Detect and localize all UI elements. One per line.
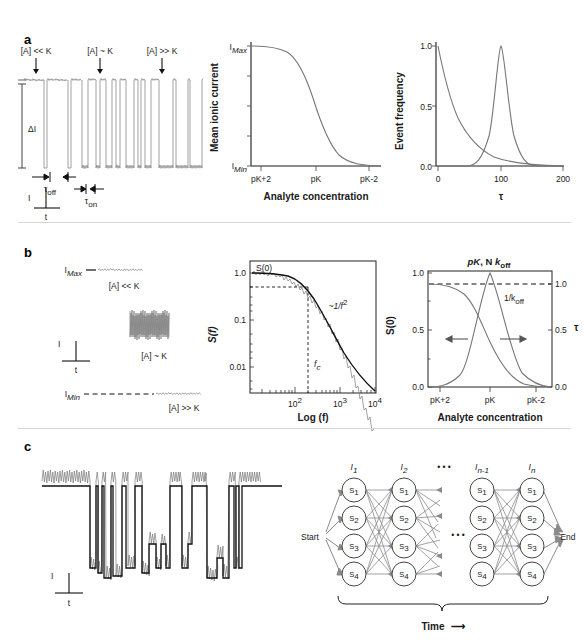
xtick-b-pk: pK: [485, 395, 496, 405]
ionic-current-signal: [24, 78, 203, 168]
xtick-pk-plus-2: pK+2: [251, 174, 271, 184]
panel-a: a [A] << K [A] ~ K [A] >> K: [0, 0, 585, 215]
tau-off-marker: [32, 172, 76, 182]
scale-i-label-a: I: [28, 193, 30, 203]
lorentzian-fit-curve: [252, 273, 375, 391]
xtick-b-pk-plus-2: pK+2: [430, 395, 450, 405]
label-slope-1-over-f-squared: ~1/f2: [329, 298, 348, 311]
panel-b-s0-tau-chart: pK, N koff S(0) τ 1.0 0.5 0.0 1.0 0.5 0.…: [384, 249, 584, 424]
axis-label-event-frequency: Event frequency: [394, 72, 405, 150]
delta-i-bracket: [18, 84, 26, 168]
start-arrows: [326, 490, 344, 575]
scale-i-label-b: I: [58, 339, 60, 349]
scale-t-label-b: t: [75, 365, 78, 375]
panel-c-hmm-trellis: I1 I2 • • • In-1 In: [292, 448, 582, 638]
exponential-decay-curve: [438, 46, 563, 166]
xtick-200: 200: [556, 174, 570, 184]
panel-a-current-trace: [A] << K [A] ~ K [A] >> K: [14, 44, 204, 209]
ytick-imax: IMax: [230, 42, 248, 55]
panel-a-dwell-time-chart: Event frequency 1.0 0.5 0.0 0 100 200 τ: [392, 34, 572, 209]
ytick-right-0-0: 0.0: [555, 382, 567, 392]
ytick-left-1-0: 1.0: [412, 268, 424, 278]
panel-b-power-spectrum-chart: S(f) 1.0 0.1 0.01: [204, 249, 384, 424]
transition-edges-col2-forward: [416, 490, 442, 574]
xtick-10e3: 103: [333, 396, 347, 409]
xtick-pk: pK: [311, 174, 322, 184]
ytick-1-0-b: 1.0: [234, 268, 246, 278]
xtick-100: 100: [494, 174, 508, 184]
xtick-0: 0: [436, 174, 441, 184]
delta-i-label: ΔI: [28, 124, 36, 134]
column-label-i2: I2: [401, 462, 408, 475]
xtick-b-pk-minus-2: pK-2: [527, 395, 545, 405]
ytick-right-0-5: 0.5: [555, 325, 567, 335]
trace-low-concentration: [98, 269, 143, 271]
state-column-n: S1 S2 S3 S4: [520, 478, 544, 586]
y-ticks-b-mid: [250, 273, 254, 389]
annotation-low-conc: [A] << K: [21, 46, 52, 56]
ytick-1-0: 1.0: [420, 41, 432, 51]
axis-label-mean-ionic-current: Mean ionic current: [209, 62, 220, 152]
axis-label-tau-a: τ: [499, 191, 504, 202]
axis-label-tau-right: τ: [574, 322, 579, 333]
time-axis-label: Time⟶: [421, 621, 465, 632]
idealized-state-path: [42, 486, 282, 578]
scale-bar-c: [55, 573, 83, 593]
ytick-0-1-b: 0.1: [234, 315, 246, 325]
column-label-i1: I1: [351, 462, 358, 475]
xtick-10e2: 102: [288, 396, 302, 409]
axis-label-analyte-concentration-a: Analyte concentration: [263, 191, 368, 202]
axis-label-sf: S(f): [207, 326, 218, 343]
ytick-0-0: 0.0: [420, 162, 432, 172]
xtick-pk-minus-2: pK-2: [360, 174, 378, 184]
scale-bar-b: [62, 341, 90, 361]
tau-on-label: τon: [85, 196, 97, 209]
annotation-arrows: [33, 58, 165, 74]
end-label: End: [560, 532, 575, 542]
trace-high-concentration: [156, 393, 201, 395]
label-fc: fc: [314, 359, 320, 372]
ytick-0-5: 0.5: [420, 102, 432, 112]
annotation-b-low-conc: [A] << K: [109, 281, 140, 291]
tau-peak-curve: [429, 273, 551, 387]
scale-t-label-a: t: [45, 212, 48, 222]
state-column-2: S1 S2 S3 S4: [392, 478, 416, 586]
panel-a-dose-response-chart: Mean ionic current IMax IMin pK+2 pK pK-…: [205, 34, 385, 209]
state-column-n-minus-1: S1 S2 S3 S4: [470, 478, 494, 586]
ytick-left-0-5: 0.5: [412, 325, 424, 335]
annotation-mid-conc: [A] ~ K: [87, 46, 113, 56]
transition-edges-col3-col4: [494, 490, 520, 574]
y-minor-ticks-a-mid: [247, 46, 251, 166]
xtick-10e4: 104: [368, 396, 382, 409]
noisy-spectrum: [252, 271, 374, 431]
panel-c-multilevel-trace: I t: [14, 448, 289, 633]
axis-pointer-arrows: [446, 336, 526, 342]
column-ellipsis-top: • • •: [437, 462, 451, 472]
label-i-min-b: IMin: [65, 389, 81, 402]
column-label-in: In: [529, 462, 536, 475]
annotation-b-mid-conc: [A] ~ K: [141, 351, 167, 361]
axis-label-analyte-concentration-b: Analyte concentration: [437, 412, 542, 423]
ytick-0-01-b: 0.01: [229, 362, 246, 372]
start-label: Start: [301, 532, 320, 542]
label-s0: S(0): [256, 263, 272, 273]
scale-i-label-c: I: [51, 571, 53, 581]
chart-title-pk-n-koff: pK, N koff: [467, 256, 511, 270]
axis-label-s0-left: S(0): [385, 316, 396, 335]
panel-b: b IMax [A] << K [A] ~ K IMin [A] >> K I …: [0, 225, 585, 420]
scale-t-label-c: t: [68, 598, 71, 608]
label-1-over-koff: 1/koff: [504, 293, 525, 306]
s0-sigmoid-curve: [429, 284, 551, 387]
y-ticks-b-right: [428, 273, 552, 387]
x-ticks-a-right: [438, 166, 563, 171]
panel-divider-b-c: [18, 428, 571, 429]
ytick-imin: IMin: [232, 161, 248, 174]
middle-ellipsis: • • •: [451, 530, 465, 540]
panel-b-noise-traces: IMax [A] << K [A] ~ K IMin [A] >> K I t: [14, 249, 204, 411]
gaussian-peak-curve: [438, 46, 563, 166]
transition-edges-col1-col2: [366, 490, 392, 574]
axis-label-log-f: Log (f): [297, 412, 328, 423]
trace-mid-concentration: [130, 310, 169, 340]
state-column-1: S1 S2 S3 S4: [342, 478, 366, 586]
x-ticks-b-right: [440, 387, 536, 392]
